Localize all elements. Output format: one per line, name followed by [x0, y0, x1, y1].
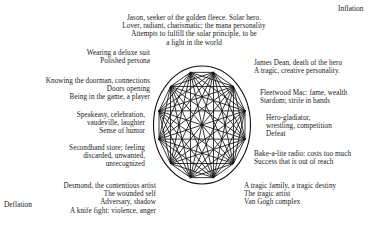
annotation-line: a light in the world: [98, 39, 290, 47]
annotation-line: Secondhand store; feeling: [4, 144, 145, 152]
annotation-line: wrestling, competition: [266, 122, 389, 130]
annotation-james-dean: James Dean, death of the hero A tragic, …: [254, 59, 389, 75]
annotation-speakeasy-celebration: Speakeasy, celebration, vaudeville, laug…: [10, 111, 145, 136]
annotation-line: Knowing the doorman, connections: [2, 77, 150, 85]
mandala-diagram: [152, 63, 252, 187]
annotation-deluxe-suit-persona: Wearing a deluxe suit Polished persona: [18, 49, 150, 65]
annotation-line: Doors opening: [2, 85, 150, 93]
annotation-line: Desmond, the contentious artist: [8, 182, 156, 190]
annotation-line: A knife fight: violence, anger: [8, 207, 156, 215]
annotation-line: Bake-a-lite radio: costs too much: [254, 150, 389, 158]
annotation-line: A tragic family, a tragic destiny: [244, 182, 389, 190]
annotation-knowing-the-doorman: Knowing the doorman, connections Doors o…: [2, 77, 150, 102]
annotation-line: Being in the game, a player: [2, 93, 150, 101]
annotation-line: The wounded self: [8, 190, 156, 198]
annotation-line: Defeat: [266, 130, 389, 138]
annotation-line: Wearing a deluxe suit: [18, 49, 150, 57]
annotation-fleetwood-mac: Fleetwood Mac: fame, wealth Stardom; str…: [260, 89, 389, 105]
annotation-line: unrecognized: [4, 160, 145, 168]
annotation-line: Lover, radiant, charismatic; the mana pe…: [98, 22, 290, 30]
annotation-line: Jason, seeker of the golden fleece. Sola…: [98, 14, 290, 22]
annotation-line: Van Gogh complex: [244, 198, 389, 206]
annotation-line: Speakeasy, celebration,: [10, 111, 145, 119]
annotation-bakealite-radio: Bake-a-lite radio: costs too much Succes…: [254, 150, 389, 166]
figure-canvas: Inflation Deflation Jason, seeker of the…: [0, 0, 389, 236]
annotation-line: Sense of humor: [10, 127, 145, 135]
annotation-line: Hero-gladiator,: [266, 114, 389, 122]
annotation-line: discarded, unwanted,: [4, 152, 145, 160]
annotation-line: Polished persona: [18, 57, 150, 65]
mandala-chords: [159, 72, 245, 177]
annotation-line: Attempts to fulfill the solar principle,…: [98, 30, 290, 38]
annotation-line: Stardom; strife in bands: [260, 97, 389, 105]
annotation-line: James Dean, death of the hero: [254, 59, 389, 67]
annotation-line: vaudeville, laughter: [10, 119, 145, 127]
mandala-svg: [152, 63, 252, 187]
annotation-tragic-family: A tragic family, a tragic destiny The tr…: [244, 182, 389, 207]
annotation-secondhand-store: Secondhand store; feeling discarded, unw…: [4, 144, 145, 169]
annotation-desmond-contentious-artist: Desmond, the contentious artist The woun…: [8, 182, 156, 215]
annotation-line: Adversary, shadow: [8, 198, 156, 206]
annotation-line: A tragic, creative personality.: [254, 67, 389, 75]
annotation-line: The tragic artist: [244, 190, 389, 198]
annotation-line: Fleetwood Mac: fame, wealth: [260, 89, 389, 97]
annotation-line: Success that is out of reach: [254, 158, 389, 166]
annotation-jason-solar-hero: Jason, seeker of the golden fleece. Sola…: [98, 14, 290, 47]
pole-label-inflation: Inflation: [338, 4, 363, 13]
annotation-hero-gladiator: Hero-gladiator, wrestling, competition D…: [266, 114, 389, 139]
